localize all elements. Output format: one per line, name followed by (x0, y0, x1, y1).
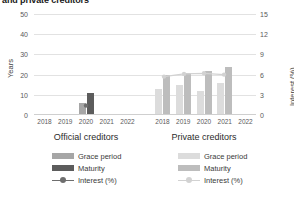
x-tick-label: 2018 (36, 118, 53, 128)
bar-group (57, 14, 74, 115)
left-tick-label: 50 (8, 11, 28, 18)
right-axis-title: Interest (%) (288, 67, 294, 106)
legend-swatch-icon (178, 153, 200, 159)
bar-maturity (184, 73, 191, 115)
legend-swatch-icon (52, 165, 74, 171)
chart-root: and private creditors Years Interest (%)… (0, 0, 294, 201)
left-tick-label: 10 (8, 91, 28, 98)
bar-maturity (163, 75, 170, 115)
bars-official (34, 14, 138, 115)
right-tick-label: 15 (260, 11, 280, 18)
bar-group (237, 14, 254, 115)
legend-line-marker-icon (178, 177, 200, 184)
bar-group (119, 14, 136, 115)
panel-title-official: Official creditors (34, 132, 138, 142)
bar-group (36, 14, 53, 115)
legend-item[interactable]: Interest (%) (178, 174, 247, 186)
x-tick-label: 2021 (216, 118, 233, 128)
legend-label: Maturity (204, 164, 231, 173)
left-tick-label: 40 (8, 31, 28, 38)
legend-item[interactable]: Interest (%) (52, 174, 121, 186)
right-tick-label: 9 (260, 51, 280, 58)
x-axis-baseline (34, 114, 256, 115)
bar-group (98, 14, 115, 115)
left-tick-label: 20 (8, 71, 28, 78)
bar-maturity (205, 71, 212, 115)
legend-label: Interest (%) (204, 176, 243, 185)
bar-group (216, 14, 233, 115)
bar-group (154, 14, 171, 115)
panel-private-creditors (152, 14, 256, 115)
legend-item[interactable]: Maturity (178, 162, 247, 174)
legend-label: Interest (%) (78, 176, 117, 185)
bar-group (175, 14, 192, 115)
bar-group (78, 14, 95, 115)
x-tick-label: 2022 (119, 118, 136, 128)
x-tick-label: 2019 (175, 118, 192, 128)
right-tick-label: 12 (260, 31, 280, 38)
right-tick-label: 3 (260, 91, 280, 98)
bar-maturity (87, 93, 94, 115)
bar-maturity (225, 67, 232, 115)
bar-grace-period (197, 91, 204, 115)
chart-title: and private creditors (0, 0, 294, 5)
plot-area (34, 14, 256, 115)
legend-line-marker-icon (52, 177, 74, 184)
x-axis-ticks-private: 20182019202020212022 (152, 118, 256, 128)
x-tick-label: 2021 (98, 118, 115, 128)
x-axis-ticks-official: 20182019202020212022 (34, 118, 138, 128)
x-tick-label: 2020 (196, 118, 213, 128)
right-tick-label: 6 (260, 71, 280, 78)
left-tick-label: 0 (8, 112, 28, 119)
legend-label: Grace period (204, 152, 247, 161)
right-tick-label: 0 (260, 112, 280, 119)
legend-label: Grace period (78, 152, 121, 161)
left-tick-label: 30 (8, 51, 28, 58)
legend-official: Grace periodMaturityInterest (%) (52, 150, 121, 186)
x-tick-label: 2019 (57, 118, 74, 128)
x-tick-label: 2020 (78, 118, 95, 128)
legend-swatch-icon (52, 153, 74, 159)
legend-swatch-icon (178, 165, 200, 171)
legend-private: Grace periodMaturityInterest (%) (178, 150, 247, 186)
panel-official-creditors (34, 14, 138, 115)
panel-title-private: Private creditors (152, 132, 256, 142)
bars-private (152, 14, 256, 115)
bar-grace-period (176, 85, 183, 115)
bar-group (196, 14, 213, 115)
bar-grace-period (217, 83, 224, 115)
bar-grace-period (155, 89, 162, 115)
legend-item[interactable]: Maturity (52, 162, 121, 174)
legend-label: Maturity (78, 164, 105, 173)
legend-item[interactable]: Grace period (52, 150, 121, 162)
x-tick-label: 2018 (154, 118, 171, 128)
x-tick-label: 2022 (237, 118, 254, 128)
legend-item[interactable]: Grace period (178, 150, 247, 162)
